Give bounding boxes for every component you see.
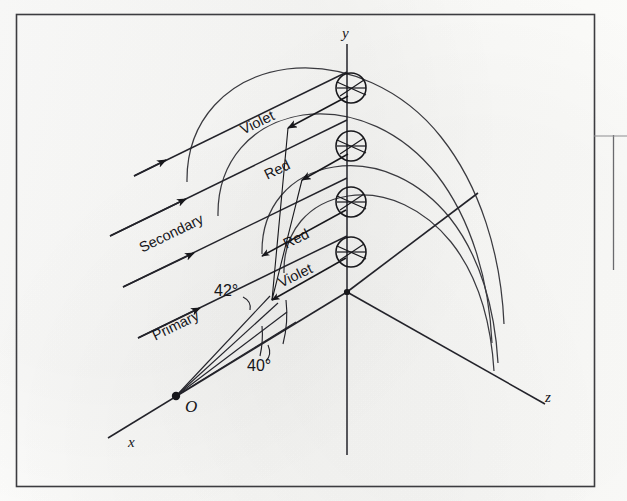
angle-arc-40 — [260, 326, 262, 356]
x-axis — [108, 292, 347, 438]
angle-label-42: 42° — [214, 283, 238, 299]
water-droplets — [336, 73, 366, 267]
angle-leader-42 — [243, 297, 250, 310]
droplet — [336, 73, 366, 103]
figure-border — [17, 15, 627, 487]
exit-ray-secondary-red — [302, 154, 348, 180]
figure-page: y x z O Violet Red Red Violet Secondary … — [0, 0, 627, 501]
rainbow-arcs — [187, 68, 504, 371]
axis-label-y: y — [342, 26, 349, 41]
rainbow-diagram-svg — [0, 0, 627, 501]
droplet — [336, 237, 366, 267]
z-axis-upper — [347, 193, 478, 292]
angle-label-40: 40° — [247, 358, 271, 374]
axis-label-x: x — [128, 435, 135, 450]
angle-arc-42 — [283, 300, 287, 344]
observer-label-O: O — [185, 398, 197, 415]
droplet — [336, 131, 366, 161]
origin-point — [344, 289, 350, 295]
ray-to-droplet-4 — [176, 322, 296, 396]
arc-primary-violet — [284, 195, 494, 371]
observer-point — [172, 392, 180, 400]
z-axis — [347, 292, 545, 404]
axis-label-z: z — [545, 390, 551, 405]
